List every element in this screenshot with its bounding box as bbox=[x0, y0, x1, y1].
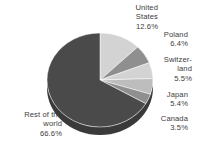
slice-label-japan: Japan 5.4% bbox=[126, 90, 188, 109]
slice-label-rest-of-world-line1: Rest of the bbox=[0, 110, 62, 119]
slice-value-poland: 6.4% bbox=[126, 39, 188, 48]
slice-label-canada-line1: Canada bbox=[126, 114, 188, 123]
slice-label-united-states-line2: States bbox=[96, 12, 158, 21]
slice-label-united-states: United States 12.6% bbox=[96, 3, 158, 31]
slice-label-rest-of-world-line2: world bbox=[0, 119, 62, 128]
slice-label-poland-line1: Poland bbox=[126, 30, 188, 39]
slice-label-japan-line1: Japan bbox=[126, 90, 188, 99]
slice-value-switzerland: 5.5% bbox=[130, 74, 192, 83]
slice-label-switzerland-line2: land bbox=[130, 64, 192, 73]
slice-label-united-states-line1: United bbox=[96, 3, 158, 12]
slice-label-switzerland: Switzer- land 5.5% bbox=[130, 55, 192, 83]
slice-value-rest-of-world: 66.6% bbox=[0, 129, 62, 138]
slice-value-canada: 3.5% bbox=[126, 123, 188, 132]
pie-chart-figure: United States 12.6% Poland 6.4% Switzer-… bbox=[0, 0, 206, 161]
slice-label-rest-of-world: Rest of the world 66.6% bbox=[0, 110, 62, 138]
slice-label-canada: Canada 3.5% bbox=[126, 114, 188, 133]
slice-label-poland: Poland 6.4% bbox=[126, 30, 188, 49]
slice-value-japan: 5.4% bbox=[126, 99, 188, 108]
slice-label-switzerland-line1: Switzer- bbox=[130, 55, 192, 64]
